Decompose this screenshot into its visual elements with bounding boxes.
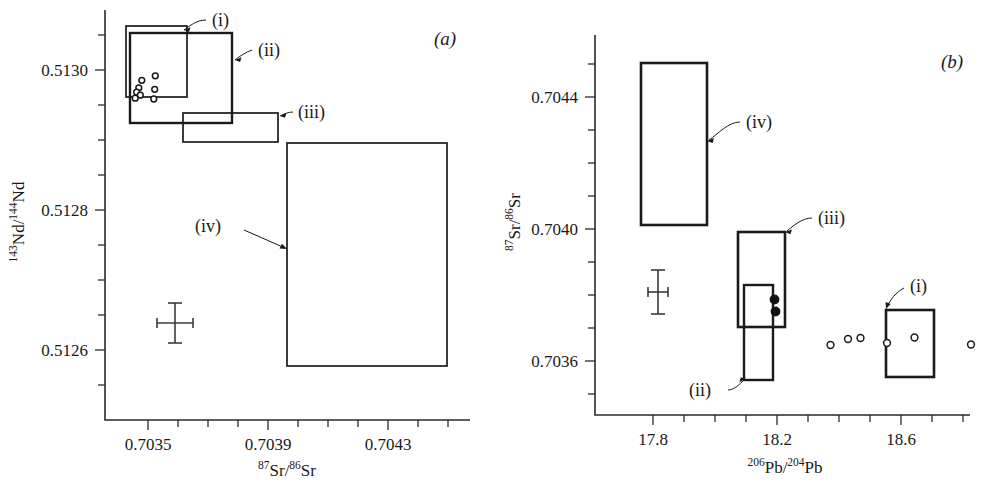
annotation-ii: (ii) [689, 377, 746, 401]
panel-label-b: (b) [941, 51, 963, 73]
x-tick-label: 0.7039 [245, 435, 292, 454]
annotation-ii-label: (ii) [689, 380, 711, 401]
field-box-ii [130, 33, 232, 123]
annotation-iii: (iii) [280, 102, 325, 123]
y-tick-label: 0.5130 [41, 61, 88, 80]
panel-a: 0.5130 0.5128 0.5126 0.7035 0.7039 0.704… [0, 0, 500, 481]
error-bar-cross [648, 270, 668, 314]
annotation-i-label: (i) [212, 10, 229, 31]
field-box-i [886, 310, 934, 377]
field-box-ii [744, 285, 773, 380]
field-box-iii [183, 113, 278, 142]
panel-b-plot: 0.7044 0.7040 0.7036 17.8 18.2 18.6 206P… [500, 0, 1001, 481]
annotation-iv-label: (iv) [195, 216, 221, 237]
x-axis-ticks [653, 415, 963, 425]
annotation-iii: (iii) [785, 208, 845, 234]
panel-label-a: (a) [434, 28, 456, 50]
annotation-iv-label: (iv) [746, 112, 772, 133]
data-points-filled [770, 295, 780, 316]
data-points-open [827, 334, 974, 348]
annotation-iii-label: (iii) [818, 208, 845, 229]
y-axis-ticks [585, 64, 595, 394]
x-tick-label: 0.7035 [125, 435, 172, 454]
y-tick-label: 0.7040 [531, 220, 578, 239]
y-axis-title: 143Nd/144Nd [7, 181, 28, 262]
y-tick-label: 0.5126 [41, 341, 88, 360]
y-tick-label: 0.5128 [41, 201, 88, 220]
annotation-iv: (iv) [707, 112, 772, 143]
x-axis-title: 87Sr/86Sr [258, 459, 316, 480]
y-tick-label: 0.7036 [531, 352, 578, 371]
x-axis-title: 206Pb/204Pb [747, 456, 822, 477]
error-bar-cross [157, 303, 193, 343]
annotation-i: (i) [886, 276, 927, 309]
figure-root: 0.5130 0.5128 0.5126 0.7035 0.7039 0.704… [0, 0, 1001, 481]
panel-a-plot: 0.5130 0.5128 0.5126 0.7035 0.7039 0.704… [0, 0, 500, 481]
annotation-i: (i) [184, 10, 229, 32]
field-box-iv [641, 63, 707, 225]
x-tick-label: 17.8 [638, 430, 668, 449]
annotation-iv: (iv) [195, 216, 287, 249]
annotation-i-label: (i) [910, 276, 927, 297]
annotation-ii-label: (ii) [258, 40, 280, 61]
annotation-ii: (ii) [235, 40, 280, 62]
annotation-iii-label: (iii) [298, 102, 325, 123]
x-tick-label: 18.6 [886, 430, 916, 449]
panel-b: 0.7044 0.7040 0.7036 17.8 18.2 18.6 206P… [500, 0, 1001, 481]
x-tick-label: 0.7043 [365, 435, 412, 454]
x-tick-label: 18.2 [762, 430, 792, 449]
x-axis-ticks [148, 420, 448, 430]
field-box-iv [287, 143, 447, 366]
y-axis-ticks [95, 35, 105, 385]
y-axis-title: 87Sr/86Sr [503, 193, 524, 251]
y-tick-label: 0.7044 [531, 88, 578, 107]
